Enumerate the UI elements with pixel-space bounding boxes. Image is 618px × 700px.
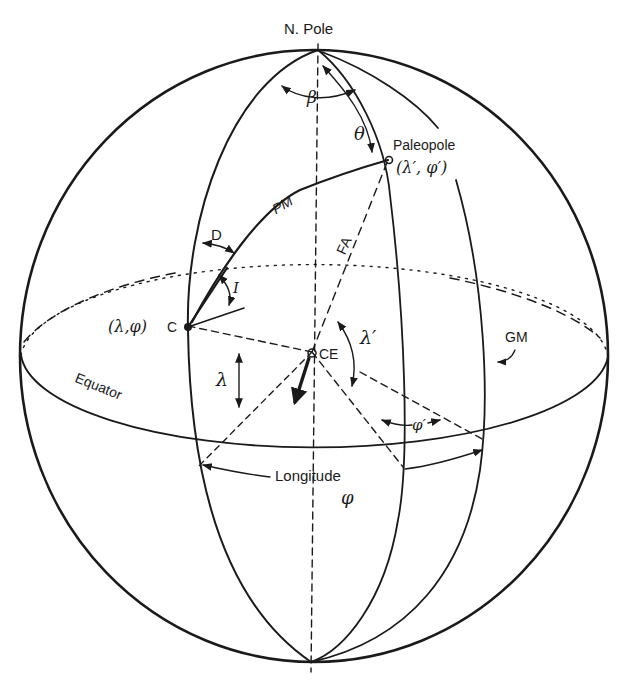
polar-axis bbox=[311, 44, 318, 672]
center-label: CE bbox=[319, 346, 338, 362]
phi-prime-arrow bbox=[382, 420, 412, 425]
ce-to-site bbox=[188, 326, 312, 352]
lambda-prime-arc bbox=[338, 322, 354, 386]
globe-svg: N. Pole Paleopole (λ′, φ′) (λ,φ) C CE PM… bbox=[0, 0, 618, 700]
equator-back-dashes-left bbox=[24, 272, 180, 342]
fa-line bbox=[312, 160, 388, 352]
pm-label: PM bbox=[269, 193, 295, 218]
gm-meridian-upper bbox=[322, 52, 438, 128]
phi-label: φ bbox=[341, 487, 354, 508]
lambda-label: λ bbox=[215, 368, 228, 390]
longitude-label: Longitude bbox=[275, 467, 341, 484]
ce-to-equator-mid bbox=[312, 352, 403, 467]
globe-diagram: N. Pole Paleopole (λ′, φ′) (λ,φ) C CE PM… bbox=[0, 0, 618, 700]
horizontal-line bbox=[188, 308, 244, 327]
inclination-label: I bbox=[232, 279, 240, 297]
declination-arc bbox=[203, 243, 234, 253]
paleopole-label: Paleopole bbox=[393, 137, 455, 153]
phi-prime-arrow-right bbox=[428, 420, 440, 423]
beta-label: β bbox=[306, 87, 317, 107]
gm-label: GM bbox=[505, 329, 528, 345]
theta-label: θ bbox=[354, 123, 365, 144]
site-meridian bbox=[188, 50, 318, 662]
site-coords-label: (λ,φ) bbox=[108, 317, 147, 336]
equator-label: Equator bbox=[73, 369, 125, 402]
longitude-arrow-left bbox=[203, 465, 270, 477]
dipole-arrow bbox=[295, 358, 309, 402]
lambda-prime-label: λ′ bbox=[359, 326, 377, 348]
declination-label: D bbox=[211, 226, 222, 243]
north-pole-label: N. Pole bbox=[284, 20, 333, 37]
longitude-arrow-right bbox=[405, 450, 482, 469]
site-label: C bbox=[167, 319, 177, 335]
phi-prime-label: φ′ bbox=[412, 416, 427, 434]
gm-pointer bbox=[498, 350, 515, 362]
paleopole-coords-label: (λ′, φ′) bbox=[396, 158, 447, 177]
ce-to-equator-left bbox=[196, 352, 312, 469]
